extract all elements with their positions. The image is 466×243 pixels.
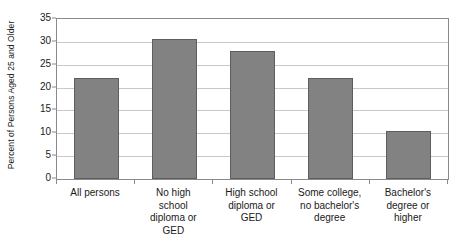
bar bbox=[152, 39, 197, 179]
plot-area bbox=[56, 18, 449, 180]
x-axis-tick-mark bbox=[447, 179, 448, 184]
x-axis-category-label-line: degree or bbox=[369, 200, 447, 213]
x-axis-category-label: Bachelor'sdegree orhigher bbox=[369, 187, 447, 225]
y-axis-tick-label: 20 bbox=[40, 82, 51, 92]
x-axis-category-label: Some college,no bachelor'sdegree bbox=[291, 187, 369, 225]
bar bbox=[74, 78, 119, 179]
x-axis-category-label-line: All persons bbox=[56, 187, 134, 200]
x-axis-category-label: All persons bbox=[56, 187, 134, 200]
y-axis-tick-label: 10 bbox=[40, 127, 51, 137]
x-axis-tick-mark bbox=[56, 179, 57, 184]
y-axis-ticks: 05101520253035 bbox=[22, 18, 56, 178]
x-axis-category-label-line: High school bbox=[212, 187, 290, 200]
x-axis-category-label-line: GED bbox=[212, 212, 290, 225]
x-axis-category-label-line: school bbox=[134, 200, 212, 213]
x-axis-category-label-line: no bachelor's bbox=[291, 200, 369, 213]
bar bbox=[230, 51, 275, 179]
x-axis-category-label-line: higher bbox=[369, 212, 447, 225]
bars-group bbox=[57, 19, 448, 179]
x-axis-tick-mark bbox=[212, 179, 213, 184]
x-axis-category-label-line: Bachelor's bbox=[369, 187, 447, 200]
y-axis-tick-label: 15 bbox=[40, 104, 51, 114]
x-axis-ticks bbox=[56, 179, 449, 185]
x-axis-tick-mark bbox=[134, 179, 135, 184]
x-axis-tick-mark bbox=[369, 179, 370, 184]
x-axis-category-label-line: degree bbox=[291, 212, 369, 225]
y-axis-tick-label: 5 bbox=[45, 150, 51, 160]
x-axis-category-label-line: GED bbox=[134, 225, 212, 238]
y-axis-title: Percent of Persons Aged 25 and Older bbox=[0, 0, 22, 190]
x-axis-tick-mark bbox=[291, 179, 292, 184]
bar bbox=[386, 131, 431, 179]
x-axis-category-label-line: No high bbox=[134, 187, 212, 200]
y-axis-tick-label: 0 bbox=[45, 173, 51, 183]
x-axis-category-label-line: diploma or bbox=[212, 200, 290, 213]
y-axis-tick-label: 35 bbox=[40, 13, 51, 23]
x-axis-category-label: High schooldiploma orGED bbox=[212, 187, 290, 225]
x-axis-category-label-line: diploma or bbox=[134, 212, 212, 225]
bar bbox=[308, 78, 353, 179]
bar-chart: Percent of Persons Aged 25 and Older 051… bbox=[0, 0, 466, 243]
x-axis-category-label: No highschooldiploma orGED bbox=[134, 187, 212, 237]
x-axis-category-label-line: Some college, bbox=[291, 187, 369, 200]
x-axis-labels: All personsNo highschooldiploma orGEDHig… bbox=[56, 187, 447, 243]
y-axis-tick-label: 30 bbox=[40, 36, 51, 46]
y-axis-title-text: Percent of Persons Aged 25 and Older bbox=[6, 21, 16, 170]
y-axis-tick-label: 25 bbox=[40, 59, 51, 69]
